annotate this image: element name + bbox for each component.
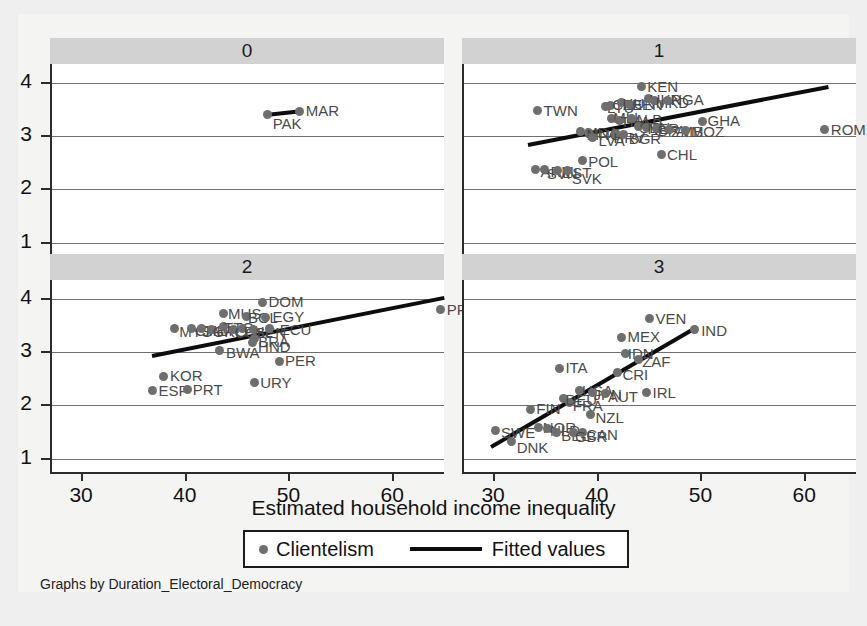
gridline-y-2: [464, 189, 856, 190]
x-axis-line-3: [462, 472, 856, 474]
plot-area-0: PAKMAR: [50, 64, 444, 256]
data-point: [507, 437, 516, 446]
figure-footnote: Graphs by Duration_Electoral_Democracy: [40, 576, 302, 592]
data-point: [553, 166, 562, 175]
data-point-label: BWA: [226, 344, 260, 361]
gridline-y-2: [52, 189, 444, 190]
fitted-values-line-icon: [410, 547, 482, 551]
figure-root: 01234PAKMAR1TWNMDAMNGLVAARMSVNESTSVKPOLH…: [0, 0, 867, 626]
data-point-label: NZL: [595, 409, 623, 426]
data-point-label: CHL: [667, 146, 697, 163]
data-point: [637, 82, 646, 91]
gridline-y-2: [52, 405, 444, 406]
y-tick-label-2: 2: [6, 391, 32, 415]
gridline-y-4: [52, 299, 444, 300]
y-tick-mark-4: [41, 298, 50, 300]
data-point: [690, 325, 699, 334]
data-point-label: FIN: [536, 400, 560, 417]
data-point-label: MAR: [306, 102, 339, 119]
plot-area-1: TWNMDAMNGLVAARMSVNESTSVKPOLHRVBGRLTUCZEH…: [462, 64, 856, 256]
facet-panel-2: 21234ESPKORPRTMYSCHEJAMGRCTTOCOLPHLSENEC…: [50, 254, 444, 512]
data-point-label: ROM: [831, 121, 866, 138]
data-point: [698, 117, 707, 126]
data-point-label: PER: [285, 352, 316, 369]
data-point-label: IRL: [652, 384, 675, 401]
clientelism-marker-icon: [259, 545, 268, 554]
gridline-y-1: [52, 459, 444, 460]
data-point-label: ITA: [565, 359, 587, 376]
data-point: [183, 385, 192, 394]
data-point: [531, 165, 540, 174]
data-point: [170, 324, 179, 333]
data-point: [617, 333, 626, 342]
data-point: [219, 309, 228, 318]
x-axis-title: Estimated household income inequality: [18, 496, 849, 520]
gridline-y-4: [464, 299, 856, 300]
data-point: [681, 126, 690, 135]
gridline-y-3: [52, 136, 444, 137]
figure-legend: Clientelism Fitted values: [243, 530, 629, 568]
data-point: [657, 150, 666, 159]
data-point-label: GHA: [707, 112, 740, 129]
data-point: [261, 313, 270, 322]
legend-label-fitted-values: Fitted values: [492, 538, 605, 561]
figure-canvas: 01234PAKMAR1TWNMDAMNGLVAARMSVNESTSVKPOLH…: [18, 14, 849, 592]
data-point-label: AUT: [608, 388, 638, 405]
data-point-label: POL: [588, 153, 618, 170]
y-tick-label-4: 4: [6, 69, 32, 93]
gridline-y-2: [464, 405, 856, 406]
legend-label-clientelism: Clientelism: [276, 538, 374, 561]
x-tick-mark-30: [81, 474, 83, 481]
data-point: [491, 426, 500, 435]
data-point-label: URY: [260, 374, 291, 391]
data-point-label: ZAF: [642, 353, 670, 370]
data-point-label: MEX: [628, 328, 661, 345]
x-axis-line-2: [50, 472, 444, 474]
y-tick-mark-3: [41, 135, 50, 137]
data-point: [588, 133, 597, 142]
x-tick-mark-50: [288, 474, 290, 481]
data-point-label: PRT: [193, 381, 223, 398]
data-point-label: DNK: [517, 439, 549, 456]
y-tick-label-3: 3: [6, 122, 32, 146]
data-point: [258, 298, 267, 307]
facet-panel-3: 3SWEDNKNORNLDBELCANGBRFINFRANZLDEUUSAJPN…: [462, 254, 856, 512]
plot-area-2: ESPKORPRTMYSCHEJAMGRCTTOCOLPHLSENECUMUSB…: [50, 280, 444, 472]
data-point: [148, 386, 157, 395]
plot-area-3: SWEDNKNORNLDBELCANGBRFINFRANZLDEUUSAJPNA…: [462, 280, 856, 472]
data-point-label: NGA: [671, 91, 704, 108]
data-point: [642, 388, 651, 397]
data-point-label: DOM: [268, 293, 303, 310]
data-point: [533, 106, 542, 115]
data-point: [820, 125, 829, 134]
gridline-y-1: [464, 459, 856, 460]
y-tick-label-4: 4: [6, 285, 32, 309]
data-point-label: IND: [701, 322, 727, 339]
facet-panel-header-2: 2: [50, 254, 444, 280]
y-tick-mark-1: [41, 242, 50, 244]
y-tick-label-1: 1: [6, 445, 32, 469]
y-tick-label-3: 3: [6, 338, 32, 362]
gridline-y-1: [464, 243, 856, 244]
data-point: [552, 428, 561, 437]
x-tick-mark-60: [804, 474, 806, 481]
data-point: [295, 107, 304, 116]
data-point-label: VEN: [656, 310, 687, 327]
y-tick-mark-4: [41, 82, 50, 84]
x-tick-mark-40: [597, 474, 599, 481]
y-tick-label-2: 2: [6, 175, 32, 199]
facet-panel-header-0: 0: [50, 38, 444, 64]
data-point: [159, 372, 168, 381]
data-point: [436, 305, 445, 314]
facet-panel-header-1: 1: [462, 38, 856, 64]
y-tick-mark-2: [41, 188, 50, 190]
y-tick-label-1: 1: [6, 229, 32, 253]
data-point: [645, 314, 654, 323]
data-point: [215, 346, 224, 355]
data-point-label: EGY: [273, 308, 305, 325]
x-tick-mark-40: [185, 474, 187, 481]
facet-panel-header-3: 3: [462, 254, 856, 280]
data-point-label: GBR: [575, 428, 608, 445]
data-point-label: TWN: [544, 102, 578, 119]
y-tick-mark-1: [41, 458, 50, 460]
